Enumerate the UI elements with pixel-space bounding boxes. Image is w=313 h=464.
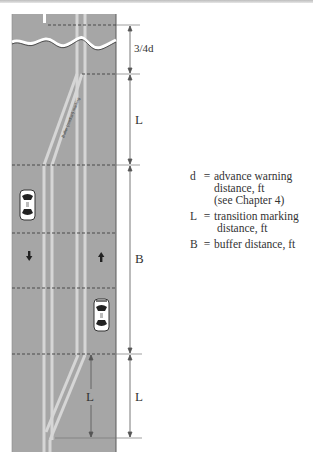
dim-label-lower-L-outer: L: [135, 389, 143, 405]
legend-text: transition marking: [214, 210, 299, 222]
dim-label-buffer-B: B: [135, 251, 144, 267]
legend-symbol: d: [190, 170, 200, 182]
legend-equals: =: [200, 238, 214, 250]
legend-symbol: L: [190, 210, 200, 222]
car-northbound-icon: [94, 299, 109, 331]
legend-entry-B: B = buffer distance, ft: [190, 238, 313, 250]
legend-text: buffer distance, ft: [214, 238, 295, 250]
legend-equals: =: [200, 170, 214, 182]
car-southbound-icon: [20, 190, 35, 220]
top-notch: [43, 14, 46, 23]
dim-label-three-quarter-d: 3/4d: [134, 42, 154, 54]
dim-label-lower-L-inner: L: [85, 389, 95, 405]
dim-label-upper-L: L: [135, 112, 143, 128]
legend-equals: =: [200, 210, 214, 222]
legend-text: (see Chapter 4): [190, 194, 313, 206]
legend-text: distance, ft: [190, 182, 313, 194]
legend-text: advance warning: [214, 170, 292, 182]
legend-symbol: B: [190, 238, 200, 250]
legend-text: distance, ft: [190, 222, 313, 234]
legend: d = advance warning distance, ft (see Ch…: [190, 170, 313, 254]
legend-entry-d: d = advance warning distance, ft (see Ch…: [190, 170, 313, 206]
legend-entry-L: L = transition marking distance, ft: [190, 210, 313, 234]
